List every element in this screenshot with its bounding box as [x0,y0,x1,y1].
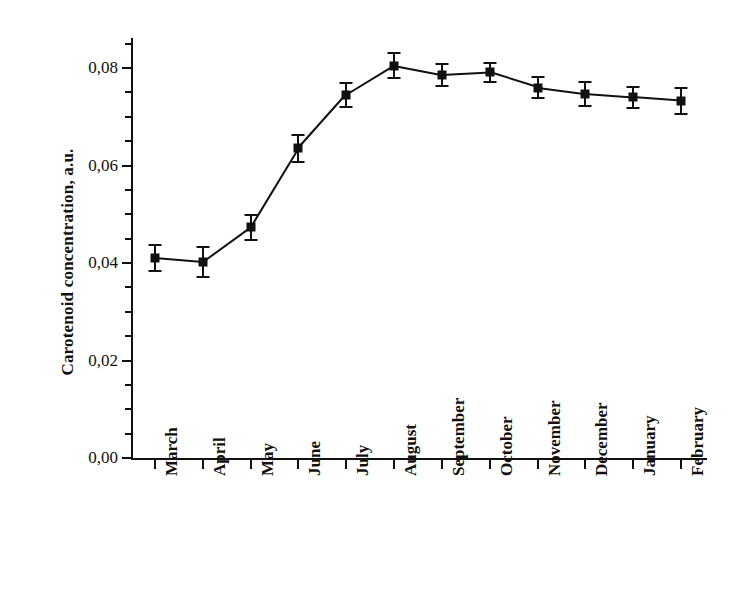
line-segment [633,96,681,101]
y-tick-major [122,360,131,362]
error-bar-cap [340,106,353,108]
error-bar-cap [435,63,448,65]
x-tick-major [489,460,491,469]
error-bar-cap [627,86,640,88]
error-bar-cap [388,52,401,54]
line-segment [585,93,633,98]
y-tick-label: 0,04 [54,253,118,273]
y-tick-major [122,67,131,69]
error-bar-cap [579,81,592,83]
y-tick-major [122,262,131,264]
error-bar-cap [244,214,257,216]
error-bar-cap [244,239,257,241]
error-bar-cap [292,161,305,163]
error-bar-cap [675,113,688,115]
error-bar-cap [627,107,640,109]
line-segment [298,94,347,149]
data-point-marker [437,70,446,79]
x-tick-major [632,460,634,469]
y-tick-major [122,457,131,459]
error-bar-cap [531,76,544,78]
error-bar-cap [340,82,353,84]
error-bar-cap [675,87,688,89]
x-tick-major [250,460,252,469]
data-point-marker [390,61,399,70]
data-point-marker [150,254,159,263]
x-tick-major [393,460,395,469]
x-tick-major [441,460,443,469]
x-tick-major [345,460,347,469]
chart-figure: Carotenoid concentration, a.u. 0,000,020… [0,0,737,615]
error-bar-cap [196,246,209,248]
data-point-marker [581,89,590,98]
data-point-marker [629,93,638,102]
error-bar-cap [435,85,448,87]
y-axis-tick-labels: 0,000,020,040,060,08 [54,0,118,615]
line-segment [155,257,203,263]
x-tick-major [154,460,156,469]
error-bar-cap [388,77,401,79]
plot-area [131,40,705,458]
y-tick-label: 0,00 [54,448,118,468]
error-bar-cap [579,105,592,107]
line-segment [537,87,585,95]
data-point-marker [485,68,494,77]
line-segment [394,65,442,76]
data-point-marker [198,258,207,267]
error-bar-cap [292,134,305,136]
data-point-marker [294,144,303,153]
x-tick-major [202,460,204,469]
y-tick-label: 0,02 [54,351,118,371]
error-bar-cap [196,276,209,278]
line-segment [250,148,300,228]
x-tick-major [537,460,539,469]
data-point-marker [533,83,542,92]
data-point-marker [246,223,255,232]
line-segment [489,71,537,88]
error-bar-cap [148,244,161,246]
line-segment [202,227,251,263]
y-tick-major [122,165,131,167]
x-tick-major [680,460,682,469]
line-segment [346,65,395,96]
data-point-marker [677,96,686,105]
x-tick-major [584,460,586,469]
line-segment [442,71,490,75]
error-bar-cap [148,270,161,272]
error-bar-cap [531,97,544,99]
error-bar-cap [483,62,496,64]
y-tick-label: 0,08 [54,58,118,78]
data-point-marker [342,90,351,99]
error-bar-cap [483,81,496,83]
y-tick-label: 0,06 [54,156,118,176]
x-tick-major [297,460,299,469]
